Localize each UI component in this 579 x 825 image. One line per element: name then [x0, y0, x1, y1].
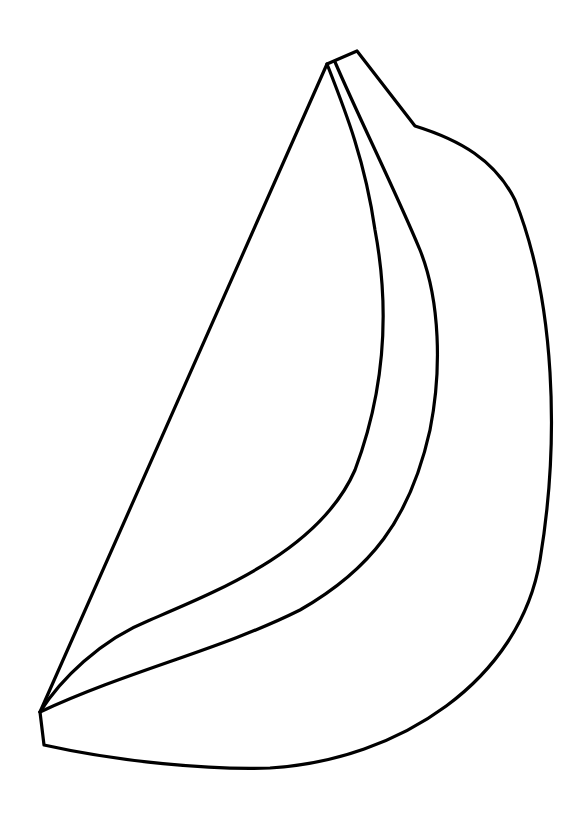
background — [0, 0, 579, 825]
banana-drawing — [0, 0, 579, 825]
